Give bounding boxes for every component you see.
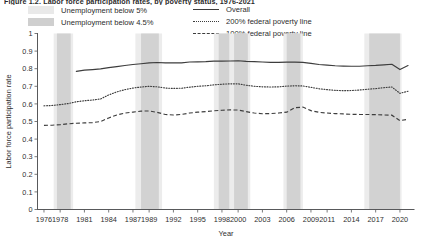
y-tick-label-4: 0.4 [22, 135, 32, 144]
shaded-band-6 [234, 34, 248, 210]
shaded-band-3 [141, 34, 159, 210]
y-axis-title: Labor force participation rate [4, 74, 13, 168]
shaded-band-8 [287, 34, 301, 210]
x-tick-label-13: 2011 [319, 215, 335, 224]
y-tick-label-0: 0 [28, 205, 32, 214]
x-tick-label-0: 1976 [36, 215, 52, 224]
y-tick-label-2: 0.2 [22, 170, 32, 179]
x-tick-label-1: 1978 [52, 215, 68, 224]
y-tick-label-1: 0.1 [22, 188, 32, 197]
x-axis-title: Year [219, 229, 234, 238]
x-tick-label-6: 1992 [165, 215, 181, 224]
shaded-bands-layer [54, 34, 402, 210]
y-tick-label-6: 0.6 [22, 100, 32, 109]
y-tick-label-3: 0.3 [22, 152, 32, 161]
x-tick-label-3: 1984 [101, 215, 117, 224]
x-tick-label-14: 2014 [343, 215, 359, 224]
y-tick-label-5: 0.5 [22, 117, 32, 126]
line-chart-svg: 00.10.20.30.40.50.60.70.80.9119761978198… [0, 0, 422, 246]
x-tick-label-16: 2020 [392, 215, 408, 224]
y-tick-label-9: 0.9 [22, 47, 32, 56]
x-tick-label-12: 2009 [303, 215, 319, 224]
x-tick-label-8: 1998 [214, 215, 230, 224]
y-tick-label-7: 0.7 [22, 82, 32, 91]
plot-area: 00.10.20.30.40.50.60.70.80.9119761978198… [0, 0, 422, 246]
y-tick-label-8: 0.8 [22, 64, 32, 73]
x-tick-label-5: 1989 [141, 215, 157, 224]
x-tick-label-11: 2006 [279, 215, 295, 224]
x-tick-label-7: 1995 [190, 215, 206, 224]
x-tick-label-9: 2000 [230, 215, 246, 224]
shaded-band-5 [219, 34, 230, 210]
shaded-band-1 [57, 34, 71, 210]
figure-root: Figure 1.2. Labor force participation ra… [0, 0, 422, 246]
y-tick-label-10: 1 [28, 29, 32, 38]
x-tick-label-15: 2017 [368, 215, 384, 224]
x-tick-label-2: 1981 [76, 215, 92, 224]
x-tick-label-4: 1987 [125, 215, 141, 224]
shaded-band-10 [369, 34, 400, 210]
x-tick-label-10: 2003 [254, 215, 270, 224]
